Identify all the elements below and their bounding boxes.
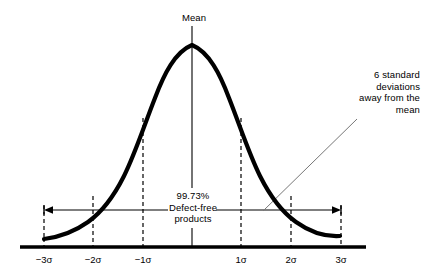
x-tick-label-pos3sigma: 3σ	[326, 254, 356, 265]
x-tick-label-pos2sigma: 2σ	[276, 254, 306, 265]
six-sigma-callout-annotation: 6 standard deviations away from the mean	[336, 69, 420, 115]
mean-label: Mean	[168, 12, 220, 24]
normal-distribution-figure: Mean 99.73% Defect-free products 6 stand…	[0, 0, 424, 280]
x-tick-label-pos1sigma: 1σ	[226, 254, 256, 265]
chart-canvas	[0, 0, 424, 280]
x-tick-label-neg3sigma: −3σ	[29, 254, 59, 265]
defect-free-annotation: 99.73% Defect-free products	[148, 190, 238, 225]
callout-leader-line	[263, 119, 357, 211]
x-tick-label-neg2sigma: −2σ	[78, 254, 108, 265]
x-tick-label-neg1sigma: −1σ	[128, 254, 158, 265]
